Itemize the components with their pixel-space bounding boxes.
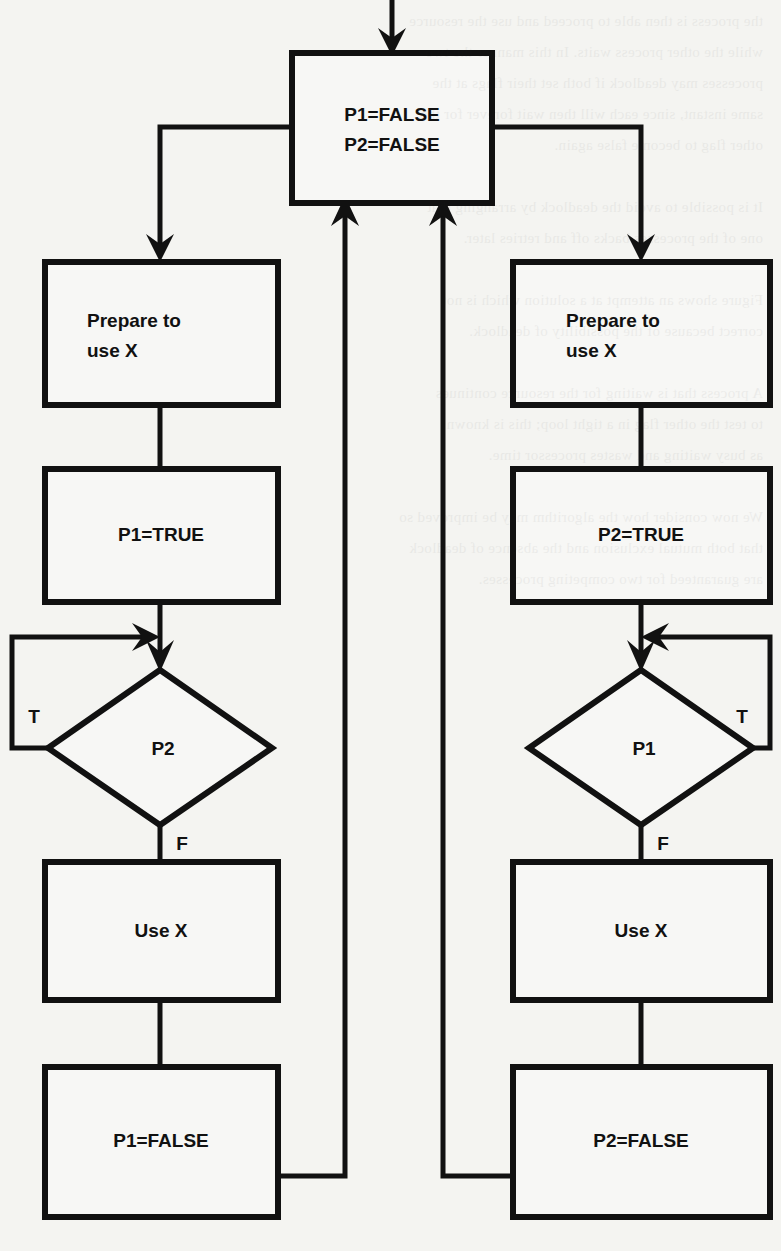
node-init[interactable]: P1=FALSE P2=FALSE	[292, 53, 492, 203]
node-use-x-right[interactable]: Use X	[513, 862, 770, 1000]
node-prepare-left-label-line1: Prepare to	[87, 310, 181, 331]
edge-label-decide-p1-false: F	[657, 833, 669, 854]
node-init-label-line1: P1=FALSE	[344, 104, 440, 125]
node-prepare-right-label-line1: Prepare to	[566, 310, 660, 331]
node-init-label-line2: P2=FALSE	[344, 134, 440, 155]
edge-p2-false-to-init	[429, 196, 513, 1176]
edge-label-decide-p1-true: T	[736, 706, 748, 727]
edge-init-to-prepare-left	[146, 127, 292, 262]
node-prepare-right-label-line2: use X	[566, 340, 617, 361]
edge-label-decide-p2-true: T	[28, 706, 40, 727]
node-prepare-right[interactable]: Prepare to use X	[513, 262, 770, 405]
node-use-x-right-label: Use X	[615, 920, 668, 941]
node-p1-false[interactable]: P1=FALSE	[45, 1067, 278, 1217]
edge-label-decide-p2-false: F	[176, 833, 188, 854]
flowchart-diagram: the process is then able to proceed and …	[0, 0, 781, 1251]
node-decide-p1-label: P1	[632, 738, 656, 759]
edge-decide-p2-false-to-use-x-left: F	[160, 825, 188, 862]
flowchart-canvas: T F T	[0, 0, 781, 1251]
node-use-x-left-label: Use X	[135, 920, 188, 941]
node-p1-true[interactable]: P1=TRUE	[45, 469, 278, 602]
node-use-x-left[interactable]: Use X	[45, 862, 278, 1000]
node-prepare-left-label-line2: use X	[87, 340, 138, 361]
node-p2-true[interactable]: P2=TRUE	[513, 469, 770, 602]
node-p1-true-label: P1=TRUE	[118, 524, 204, 545]
node-prepare-left[interactable]: Prepare to use X	[45, 262, 278, 405]
edge-decide-p1-false-to-use-x-right: F	[641, 825, 669, 862]
node-decide-p2[interactable]: P2	[48, 670, 272, 825]
node-decide-p2-label: P2	[151, 738, 174, 759]
node-p2-true-label: P2=TRUE	[598, 524, 684, 545]
node-decide-p1[interactable]: P1	[529, 670, 753, 825]
edge-entry-to-init	[378, 0, 406, 56]
node-p2-false[interactable]: P2=FALSE	[513, 1067, 770, 1217]
node-p2-false-label: P2=FALSE	[593, 1130, 689, 1151]
node-p1-false-label: P1=FALSE	[113, 1130, 209, 1151]
edge-init-to-prepare-right	[492, 127, 655, 262]
edge-p1-false-to-init	[278, 196, 359, 1176]
